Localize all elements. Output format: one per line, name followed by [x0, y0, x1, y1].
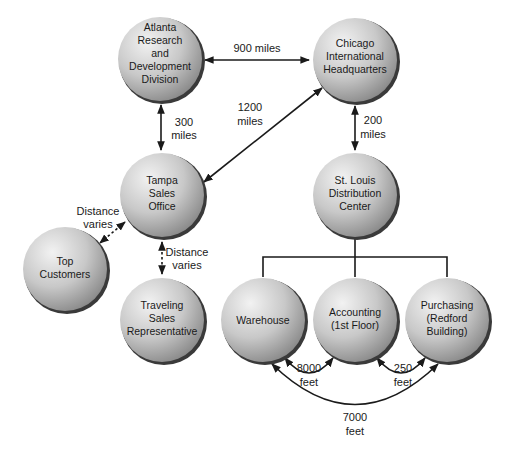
edge-label-warehouse-purchasing: 7000 [343, 411, 367, 423]
node-stlouis: St. Louis Distribution Center [313, 153, 400, 240]
node-atlanta: Atlanta Research and Development Divisio… [118, 17, 205, 104]
edge-tampa-chicago [204, 88, 322, 182]
node-label: Warehouse [236, 314, 289, 326]
node-top-customers: Top Customers [23, 227, 110, 314]
node-label: Distribution [329, 187, 382, 199]
node-label: Chicago [336, 37, 375, 49]
node-label: (1st Floor) [331, 319, 379, 331]
node-label: St. Louis [335, 174, 376, 186]
node-label: Sales [149, 187, 175, 199]
edge-stlouis-tree [263, 238, 447, 277]
node-label: Sales [149, 312, 175, 324]
edge-label-tampa-chicago: miles [237, 115, 263, 127]
node-label: Development [129, 60, 191, 72]
edge-label-tampa-customers: Distance [77, 205, 120, 217]
edge-label-accounting-purchasing: feet [394, 376, 412, 388]
edge-label-warehouse-purchasing: feet [346, 425, 364, 437]
node-label: Tampa [146, 174, 178, 186]
node-label: and [151, 47, 169, 59]
node-warehouse: Warehouse [221, 278, 308, 365]
node-label: Center [339, 200, 371, 212]
node-label: (Redford [427, 312, 468, 324]
edge-label-atlanta-chicago: 900 miles [233, 42, 281, 54]
edge-label-tampa-chicago: 1200 [238, 101, 262, 113]
node-label: Traveling [141, 299, 184, 311]
edge-label-warehouse-accounting: feet [300, 376, 318, 388]
edge-label-tampa-customers: varies [83, 218, 113, 230]
node-label: Division [142, 73, 179, 85]
edge-label-atlanta-tampa: miles [171, 129, 197, 141]
node-label: Customers [40, 268, 91, 280]
node-purchasing: Purchasing (Redford Building) [405, 278, 492, 365]
edge-label-atlanta-tampa: 300 [175, 116, 193, 128]
edge-label-chicago-stlouis: 200 [364, 114, 382, 126]
node-accounting: Accounting (1st Floor) [313, 278, 400, 365]
node-label: Representative [127, 325, 198, 337]
edge-label-tampa-traveling: Distance [166, 246, 209, 258]
edge-label-tampa-traveling: varies [172, 259, 202, 271]
network-distance-diagram: Atlanta Research and Development Divisio… [0, 0, 512, 464]
node-label: Accounting [329, 306, 381, 318]
node-label: Top [57, 255, 74, 267]
node-tampa: Tampa Sales Office [120, 153, 207, 240]
edge-label-accounting-purchasing: 250 [394, 362, 412, 374]
node-label: Building) [427, 325, 468, 337]
node-traveling-sales: Traveling Sales Representative [120, 278, 207, 365]
node-label: Headquarters [323, 63, 387, 75]
node-label: Atlanta [144, 21, 177, 33]
node-chicago: Chicago International Headquarters [313, 18, 400, 105]
node-label: Research [138, 34, 183, 46]
node-label: Purchasing [421, 299, 474, 311]
node-label: Office [148, 200, 175, 212]
edge-label-chicago-stlouis: miles [360, 128, 386, 140]
edge-label-warehouse-accounting: 8000 [297, 362, 321, 374]
node-label: International [326, 50, 384, 62]
